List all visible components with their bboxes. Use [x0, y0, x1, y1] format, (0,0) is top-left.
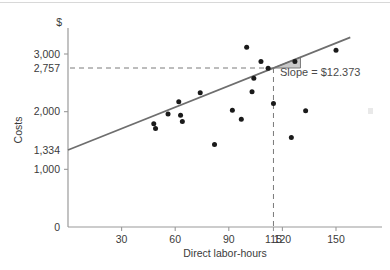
data-point — [151, 121, 156, 126]
scatter-plot-figure: 306090115120150 01,0001,3342,0002,7573,0… — [0, 0, 390, 270]
data-point — [244, 45, 249, 50]
y-tick-label: 1,334 — [34, 144, 60, 156]
x-axis-title: Direct labor-hours — [183, 247, 266, 259]
data-point — [198, 90, 203, 95]
x-tick-label: 120 — [274, 233, 292, 245]
y-tick-label: 3,000 — [34, 48, 60, 60]
regression-line — [68, 37, 350, 150]
y-tick-label: 2,757 — [34, 62, 60, 74]
slope-annotation-label: Slope = $12.373 — [280, 66, 360, 78]
data-point — [239, 117, 244, 122]
data-point — [250, 89, 255, 94]
data-point-group — [151, 45, 338, 147]
data-point — [153, 126, 158, 131]
axes-group — [68, 28, 382, 227]
reference-droplines — [70, 68, 273, 226]
data-point — [334, 48, 339, 53]
data-point — [230, 108, 235, 113]
x-tick-group: 306090115120150 — [116, 227, 345, 245]
data-point — [176, 99, 181, 104]
data-point — [303, 108, 308, 113]
y-tick-group: 01,0001,3342,0002,7573,000 — [34, 48, 68, 233]
data-point — [180, 119, 185, 124]
data-point — [166, 111, 171, 116]
chart-canvas: 306090115120150 01,0001,3342,0002,7573,0… — [0, 0, 390, 270]
y-axis-title: Costs — [12, 117, 24, 144]
x-tick-label: 60 — [169, 233, 181, 245]
data-point — [266, 66, 271, 71]
data-point — [251, 76, 256, 81]
data-point — [292, 59, 297, 64]
y-tick-label: 0 — [54, 221, 60, 233]
y-axis-unit-symbol: $ — [56, 16, 62, 28]
data-point — [289, 135, 294, 140]
x-tick-label: 90 — [223, 233, 235, 245]
x-tick-label: 150 — [327, 233, 345, 245]
data-point — [178, 113, 183, 118]
data-point — [258, 59, 263, 64]
data-point — [212, 142, 217, 147]
y-tick-label: 1,000 — [34, 163, 60, 175]
x-tick-label: 30 — [116, 233, 128, 245]
data-point — [271, 101, 276, 106]
y-tick-label: 2,000 — [34, 105, 60, 117]
